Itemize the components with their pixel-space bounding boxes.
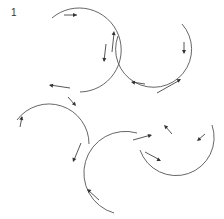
- arrow-icon: [157, 77, 182, 93]
- arrow-icon: [196, 134, 205, 143]
- arrow-icon: [163, 124, 172, 134]
- arc-top-right: [116, 24, 192, 87]
- arrow-icon: [64, 13, 77, 17]
- arrow-icon: [71, 143, 81, 163]
- arrow-icon: [49, 83, 70, 88]
- arc-left: [17, 104, 89, 144]
- arrow-icon: [145, 152, 162, 163]
- arc-top-left: [52, 8, 121, 92]
- arrow-icon: [133, 133, 153, 140]
- arrow-icon: [102, 44, 106, 62]
- arrow-icon: [68, 97, 78, 107]
- arc-right: [140, 125, 214, 176]
- arrow-icon: [182, 42, 186, 54]
- arc-layer: [17, 8, 214, 213]
- arrow-icon: [19, 116, 24, 127]
- arrow-layer: [19, 13, 205, 200]
- interlocking-arcs-diagram: [0, 0, 224, 219]
- arc-bottom: [84, 131, 137, 213]
